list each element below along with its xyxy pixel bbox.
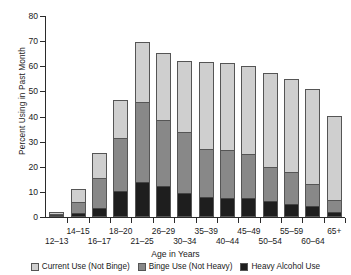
bar-14-15: [71, 189, 86, 217]
legend-item: Current Use (Not Binge): [31, 262, 130, 271]
segment-heavy-alcohol-use: [264, 201, 277, 216]
x-tick: [153, 218, 154, 223]
segment-heavy-alcohol-use: [200, 197, 213, 216]
y-tick: [40, 142, 45, 143]
x-tick: [238, 218, 239, 223]
x-category-label: 21–25: [122, 237, 162, 246]
x-tick: [217, 218, 218, 223]
y-tick-label: 30: [16, 138, 38, 147]
x-category-label: 26–29: [143, 227, 183, 236]
x-category-label: 60–64: [293, 237, 333, 246]
y-tick: [40, 16, 45, 17]
legend-swatch-icon: [31, 263, 39, 271]
bar-65+: [327, 116, 342, 217]
y-tick: [40, 66, 45, 67]
x-tick: [281, 218, 282, 223]
x-category-label: 12–13: [37, 237, 77, 246]
x-category-label: 14–15: [58, 227, 98, 236]
segment-heavy-alcohol-use: [178, 193, 191, 216]
bar-26-29: [156, 53, 171, 217]
x-tick: [196, 218, 197, 223]
x-category-label: 40–44: [208, 237, 248, 246]
x-category-label: 35–39: [186, 227, 226, 236]
legend-label: Current Use (Not Binge): [42, 262, 130, 271]
y-tick-label: 40: [16, 113, 38, 122]
legend-item: Heavy Alcohol Use: [240, 262, 320, 271]
x-category-label: 16–17: [79, 237, 119, 246]
bar-21-25: [135, 42, 150, 217]
plot-area: [46, 16, 345, 217]
bar-60-64: [305, 89, 320, 217]
bar-18-20: [113, 100, 128, 217]
segment-heavy-alcohol-use: [93, 208, 106, 216]
x-category-label: 30–34: [165, 237, 205, 246]
x-tick: [302, 218, 303, 223]
segment-heavy-alcohol-use: [50, 215, 63, 216]
x-tick: [89, 218, 90, 223]
x-category-label: 55–59: [272, 227, 312, 236]
x-category-label: 18–20: [101, 227, 141, 236]
y-tick-label: 80: [16, 12, 38, 21]
y-tick: [40, 167, 45, 168]
y-tick: [40, 192, 45, 193]
legend-item: Binge Use (Not Heavy): [138, 262, 233, 271]
bar-50-54: [263, 73, 278, 217]
y-tick: [40, 217, 45, 218]
bar-16-17: [92, 153, 107, 217]
segment-heavy-alcohol-use: [221, 198, 234, 216]
segment-heavy-alcohol-use: [328, 212, 341, 216]
x-category-label: 50–54: [250, 237, 290, 246]
bar-55-59: [284, 79, 299, 217]
segment-heavy-alcohol-use: [72, 213, 85, 216]
x-tick: [174, 218, 175, 223]
legend-label: Heavy Alcohol Use: [251, 262, 320, 271]
y-tick-label: 0: [16, 213, 38, 222]
segment-heavy-alcohol-use: [285, 204, 298, 216]
y-tick: [40, 117, 45, 118]
y-tick: [40, 91, 45, 92]
y-tick-label: 20: [16, 163, 38, 172]
segment-heavy-alcohol-use: [157, 186, 170, 216]
bar-12-13: [49, 212, 64, 217]
bar-30-34: [177, 61, 192, 217]
segment-heavy-alcohol-use: [114, 191, 127, 216]
y-tick-label: 10: [16, 188, 38, 197]
x-axis-title: Age in Years: [0, 249, 351, 259]
x-category-label: 45–49: [229, 227, 269, 236]
x-tick: [324, 218, 325, 223]
legend-label: Binge Use (Not Heavy): [149, 262, 233, 271]
bar-35-39: [199, 62, 214, 217]
y-tick-label: 50: [16, 87, 38, 96]
chart-legend: Current Use (Not Binge)Binge Use (Not He…: [0, 262, 351, 271]
x-tick: [345, 218, 346, 223]
alcohol-use-bar-chart: Percent Using in Past Month 010203040506…: [0, 0, 351, 275]
segment-heavy-alcohol-use: [242, 198, 255, 216]
y-tick-label: 60: [16, 62, 38, 71]
x-tick: [131, 218, 132, 223]
y-tick-label: 70: [16, 37, 38, 46]
bar-40-44: [220, 63, 235, 217]
segment-heavy-alcohol-use: [306, 206, 319, 216]
bar-45-49: [241, 66, 256, 217]
legend-swatch-icon: [240, 263, 248, 271]
x-tick: [67, 218, 68, 223]
x-tick: [110, 218, 111, 223]
x-category-label: 65+: [314, 227, 351, 236]
x-tick: [260, 218, 261, 223]
segment-heavy-alcohol-use: [136, 182, 149, 216]
legend-swatch-icon: [138, 263, 146, 271]
y-tick: [40, 41, 45, 42]
